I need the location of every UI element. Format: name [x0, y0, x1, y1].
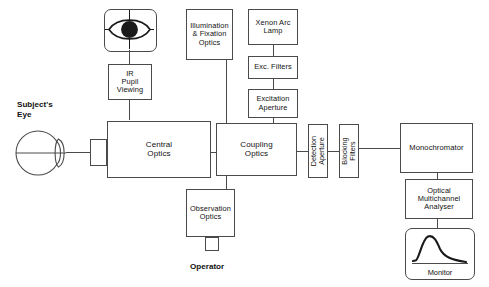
node-observation-optics[interactable]: Observation Optics	[186, 189, 235, 237]
node-blocking-filters[interactable]: Blocking Filters	[339, 124, 359, 178]
monitor-label: Monitor	[406, 268, 474, 277]
node-optical-multichannel-analyser[interactable]: Optical Multichannel Analyser	[405, 179, 473, 219]
node-illumination-fixation-optics[interactable]: Illumination & Fixation Optics	[186, 9, 233, 60]
link-eye-to-central-optics	[66, 152, 90, 153]
link-detection-aperture-to-blocking-filters	[328, 151, 339, 152]
node-exc-filters[interactable]: Exc. Filters	[248, 56, 298, 79]
system-block-diagram: Subject's Eye Operator IR Pupil Viewing …	[0, 0, 489, 287]
monitor-baseline	[412, 263, 468, 264]
node-xenon-arc-lamp[interactable]: Xenon Arc Lamp	[248, 9, 298, 45]
node-excitation-aperture[interactable]: Excitation Aperture	[248, 89, 298, 118]
link-coupling-to-observation-optics	[226, 176, 227, 189]
link-coupling-to-detection-aperture	[297, 151, 308, 152]
pupil-eye-icon	[104, 9, 157, 52]
node-ir-pupil-viewing[interactable]: IR Pupil Viewing	[108, 64, 152, 100]
link-blocking-filters-to-monochromator	[359, 148, 400, 149]
node-central-optics[interactable]: Central Optics	[107, 121, 211, 178]
link-ir-pupil-to-central-optics	[129, 100, 130, 120]
central-optics-input-port	[90, 139, 107, 166]
node-detection-aperture[interactable]: Detection Aperture	[308, 124, 328, 178]
link-illumination-to-coupling-optics	[226, 60, 227, 123]
operator-label: Operator	[190, 262, 224, 272]
node-monitor[interactable]: Monitor	[405, 228, 475, 280]
node-coupling-optics[interactable]: Coupling Optics	[216, 123, 297, 176]
link-oma-to-monitor	[437, 219, 438, 228]
subject-eye-illustration	[14, 129, 76, 177]
link-eye-icon-to-ir-pupil	[129, 50, 130, 65]
node-monochromator[interactable]: Monochromator	[400, 123, 473, 173]
subject-eye-label: Subject's Eye	[17, 100, 53, 119]
observation-optics-eyepiece-port	[205, 237, 219, 251]
